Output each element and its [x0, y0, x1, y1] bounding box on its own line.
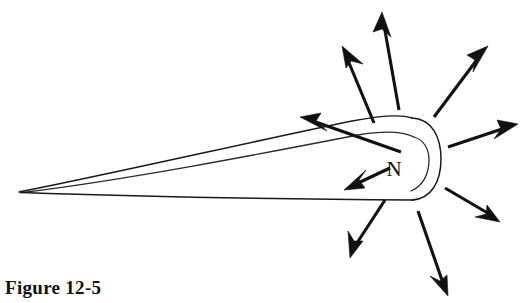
arrow-right-horizontal	[448, 120, 518, 147]
arrow-head	[430, 275, 448, 296]
arrow-upper-right-diagonal	[434, 46, 488, 117]
arrow-shaft	[434, 57, 479, 117]
arrow-bottom-vertical	[418, 211, 448, 296]
magnet-wedge	[19, 116, 441, 200]
arrow-shaft	[347, 58, 374, 123]
pole-label-n: N	[386, 157, 401, 181]
magnet-field-diagram: N	[0, 0, 527, 303]
wedge-top-edge	[22, 116, 413, 192]
arrow-lower-left-diagonal	[348, 200, 385, 258]
arrow-shaft	[445, 188, 491, 215]
arrow-head	[300, 113, 327, 131]
arrow-shaft	[384, 25, 399, 110]
wedge-bottom-edge	[22, 193, 415, 201]
arrow-inward-left	[344, 168, 390, 190]
arrow-upper-left-diagonal	[342, 46, 374, 123]
arrow-shaft	[355, 200, 385, 246]
figure-caption: Figure 12-5	[5, 277, 101, 299]
arrow-lower-right-diagonal	[445, 188, 500, 222]
arrow-shaft	[310, 120, 401, 152]
arrow-shaft	[418, 211, 443, 283]
arrow-top-vertical	[373, 12, 399, 110]
arrow-head	[373, 12, 391, 37]
arrow-head	[342, 46, 363, 68]
wedge-nose-inner-arc	[411, 137, 429, 191]
figure-container: N Figure 12-5	[0, 0, 527, 303]
